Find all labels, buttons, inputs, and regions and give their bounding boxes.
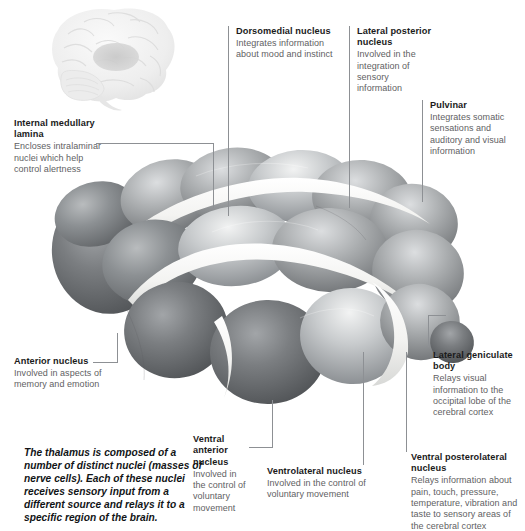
callout-title: Ventrolateral nucleus bbox=[267, 466, 392, 477]
leader-pulvinar bbox=[422, 100, 423, 202]
leader-lateral-geniculate-body-v bbox=[428, 315, 429, 347]
leader-dorsomedial-nucleus bbox=[228, 26, 229, 216]
brain-thalamus-highlight bbox=[93, 43, 139, 71]
leader-ventrolateral-nucleus bbox=[363, 352, 364, 465]
callout-title: Lateral geniculate body bbox=[433, 350, 515, 373]
callout-title: Anterior nucleus bbox=[14, 356, 118, 367]
figure-canvas: Internal medullary lamina Encloses intra… bbox=[0, 0, 525, 531]
leader-internal-medullary-lamina-v bbox=[213, 143, 214, 208]
callout-dorsomedial-nucleus: Dorsomedial nucleus Integrates informati… bbox=[236, 26, 340, 61]
callout-anterior-nucleus: Anterior nucleus Involved in aspects of … bbox=[14, 356, 118, 391]
leader-lateral-posterior-nucleus bbox=[349, 26, 350, 208]
callout-description: Integrates information about mood and in… bbox=[236, 38, 340, 61]
callout-internal-medullary-lamina: Internal medullary lamina Encloses intra… bbox=[14, 118, 110, 175]
leader-ventral-anterior-nucleus-h bbox=[249, 447, 273, 448]
leader-ventral-posterolateral-nucleus bbox=[406, 352, 407, 452]
figure-caption: The thalamus is composed of a number of … bbox=[24, 446, 204, 525]
callout-ventrolateral-nucleus: Ventrolateral nucleus Involved in the co… bbox=[267, 466, 392, 501]
callout-title: Dorsomedial nucleus bbox=[236, 26, 340, 37]
callout-title: Internal medullary lamina bbox=[14, 118, 110, 141]
leader-lateral-geniculate-body-h bbox=[428, 315, 446, 316]
callout-description: Relays visual information to the occipit… bbox=[433, 373, 515, 418]
callout-lateral-posterior-nucleus: Lateral posterior nucleus Involved in th… bbox=[357, 26, 435, 95]
callout-title: Ventral posterolateral nucleus bbox=[411, 452, 523, 475]
callout-description: Involved in the integration of sensory i… bbox=[357, 49, 435, 94]
callout-description: Involved in aspects of memory and emotio… bbox=[14, 368, 118, 391]
callout-title: Pulvinar bbox=[430, 100, 516, 111]
callout-description: Integrates somatic sensations and audito… bbox=[430, 112, 516, 157]
callout-pulvinar: Pulvinar Integrates somatic sensations a… bbox=[430, 100, 516, 157]
callout-lateral-geniculate-body: Lateral geniculate body Relays visual in… bbox=[433, 350, 515, 419]
callout-description: Involved in the control of voluntary mov… bbox=[267, 478, 392, 501]
leader-ventral-anterior-nucleus-v bbox=[272, 400, 273, 447]
callout-ventral-posterolateral-nucleus: Ventral posterolateral nucleus Relays in… bbox=[411, 452, 523, 531]
callout-description: Encloses intralaminar nuclei which help … bbox=[14, 141, 110, 175]
callout-description: Relays information about pain, touch, pr… bbox=[411, 475, 523, 531]
leader-internal-medullary-lamina-h bbox=[96, 143, 214, 144]
callout-title: Lateral posterior nucleus bbox=[357, 26, 435, 49]
brain-inset-icon bbox=[52, 8, 175, 110]
